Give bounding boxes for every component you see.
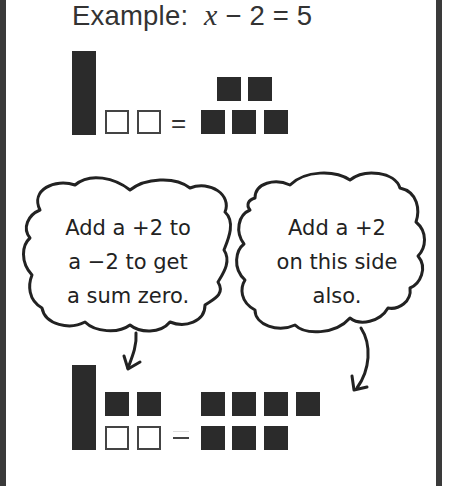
equals-sign: [173, 437, 189, 439]
right-bubble-text: Add a +2 on this side also.: [252, 211, 422, 313]
right-arrow: [357, 328, 368, 388]
positive-unit-tile: [296, 392, 320, 416]
bubble-line: Add a +2 to: [38, 211, 218, 245]
equals-sign-faded-bar: [173, 431, 189, 432]
positive-unit-tile: [105, 392, 129, 416]
x-bar-tile: [72, 365, 96, 450]
bubble-line: a sum zero.: [38, 279, 218, 313]
bubble-line: Add a +2: [252, 211, 422, 245]
left-arrow: [128, 333, 136, 368]
positive-unit-tile: [232, 426, 256, 450]
positive-unit-tile: [264, 426, 288, 450]
negative-unit-tile: [105, 426, 129, 450]
positive-unit-tile: [201, 392, 225, 416]
positive-unit-tile: [264, 392, 288, 416]
left-bubble-text: Add a +2 to a −2 to get a sum zero.: [38, 211, 218, 313]
bubble-line: a −2 to get: [38, 245, 218, 279]
negative-unit-tile: [137, 426, 161, 450]
positive-unit-tile: [137, 392, 161, 416]
bubble-line: also.: [252, 279, 422, 313]
positive-unit-tile: [232, 392, 256, 416]
bubble-line: on this side: [252, 245, 422, 279]
positive-unit-tile: [201, 426, 225, 450]
